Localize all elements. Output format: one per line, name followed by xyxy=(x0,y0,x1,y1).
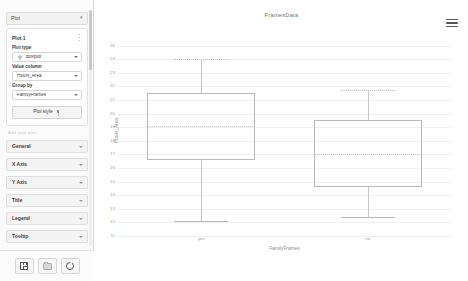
section-label-y-axis: Y Axis xyxy=(12,180,27,185)
gridline xyxy=(118,46,451,47)
plot-canvas: 111213141516171819202122232425 Hours_Are… xyxy=(118,32,451,236)
open-button[interactable] xyxy=(38,258,57,274)
sidebar-section-tooltip[interactable]: Tooltip xyxy=(6,230,88,243)
refresh-button[interactable] xyxy=(61,258,80,274)
boxplot-whisker-cap-upper xyxy=(174,59,228,60)
chevron-down-icon xyxy=(74,56,78,58)
more-vertical-icon[interactable] xyxy=(77,34,82,41)
y-tick-label: 15 xyxy=(93,180,115,184)
gridline xyxy=(118,73,451,74)
sidebar-section-y-axis[interactable]: Y Axis xyxy=(6,176,88,189)
section-label-x-axis: X Axis xyxy=(12,162,27,167)
boxplot-whisker-upper xyxy=(201,59,202,93)
value-column-value: Hours_Area xyxy=(17,74,42,79)
add-plot-hint[interactable]: Add new plot xyxy=(8,131,86,135)
boxplot-median-line xyxy=(147,126,255,127)
hamburger-menu-icon[interactable] xyxy=(446,18,458,28)
gridline xyxy=(118,209,451,210)
group-by-label: Group by xyxy=(12,84,82,89)
plot-config-card: Plot 1 Plot type Boxplot Value column Ho… xyxy=(6,28,88,126)
y-axis-label: Hours_Area xyxy=(114,118,119,143)
gridline xyxy=(118,59,451,60)
y-tick-label: 24 xyxy=(93,57,115,61)
gridline xyxy=(118,195,451,196)
sidebar-scrollbar-thumb[interactable] xyxy=(89,10,92,70)
chevron-down-icon xyxy=(79,164,83,166)
plot-name-label: Plot 1 xyxy=(12,35,26,41)
boxplot-whisker-lower xyxy=(201,160,202,221)
plot-type-value: Boxplot xyxy=(26,55,41,60)
chart-title: FramesData xyxy=(95,12,468,18)
plot-style-label: Plot style xyxy=(33,110,52,115)
chevron-down-icon[interactable]: ▾ xyxy=(80,16,83,21)
sidebar-scroll-content: Plot ▾ Plot 1 Plot type Boxplot Value co… xyxy=(0,8,94,248)
y-tick-label: 21 xyxy=(93,98,115,102)
y-tick-label: 19 xyxy=(93,125,115,129)
y-tick-label: 16 xyxy=(93,166,115,170)
save-button[interactable] xyxy=(15,258,34,274)
y-tick-label: 20 xyxy=(93,112,115,116)
x-tick-label: yes xyxy=(181,236,221,241)
section-label-legend: Legend xyxy=(12,216,30,221)
boxplot-whisker-cap-lower xyxy=(174,221,228,222)
chevron-down-icon xyxy=(79,182,83,184)
sidebar-section-legend[interactable]: Legend xyxy=(6,212,88,225)
y-tick-label: 12 xyxy=(93,220,115,224)
group-by-select[interactable]: FamilyFrames xyxy=(12,90,82,100)
plot-editor-app: Plot ▾ Plot 1 Plot type Boxplot Value co… xyxy=(0,0,468,281)
y-tick-label: 25 xyxy=(93,44,115,48)
group-by-value: FamilyFrames xyxy=(17,93,46,98)
chevron-down-icon xyxy=(79,236,83,238)
boxplot-whisker-cap-upper xyxy=(341,90,395,91)
plot-style-button[interactable]: Plot style xyxy=(12,106,82,119)
y-tick-label: 11 xyxy=(93,234,115,238)
value-column-label: Value column xyxy=(12,65,82,70)
brush-icon xyxy=(56,110,61,116)
plot-card-header: Plot 1 xyxy=(12,33,82,42)
gridline xyxy=(118,86,451,87)
y-tick-label: 22 xyxy=(93,84,115,88)
boxplot-whisker-lower xyxy=(368,187,369,217)
sidebar-section-title[interactable]: Title xyxy=(6,194,88,207)
gridline xyxy=(118,236,451,237)
y-tick-label: 18 xyxy=(93,139,115,143)
boxplot-median-line xyxy=(314,154,422,155)
section-label-title: Title xyxy=(12,198,22,203)
y-tick-label: 14 xyxy=(93,193,115,197)
plot-panel-title: Plot xyxy=(11,16,20,21)
sidebar-scrollbar[interactable] xyxy=(89,10,92,246)
chevron-down-icon xyxy=(74,94,78,96)
chevron-down-icon xyxy=(79,218,83,220)
section-label-general: General xyxy=(12,144,31,149)
plot-panel-header[interactable]: Plot ▾ xyxy=(6,12,88,25)
y-tick-label: 17 xyxy=(93,152,115,156)
y-tick-label: 23 xyxy=(93,71,115,75)
x-axis-label: FamilyFrames xyxy=(118,246,451,251)
refresh-icon xyxy=(66,262,74,270)
boxplot-icon xyxy=(17,54,23,60)
chevron-down-icon xyxy=(74,75,78,77)
plot-type-label: Plot type xyxy=(12,46,82,51)
section-label-tooltip: Tooltip xyxy=(12,234,28,239)
plot-type-select[interactable]: Boxplot xyxy=(12,52,82,62)
chart-area: FramesData 11121314151617181920212223242… xyxy=(95,0,468,281)
sidebar-section-general[interactable]: General xyxy=(6,140,88,153)
chevron-down-icon xyxy=(79,146,83,148)
sidebar-panel: Plot ▾ Plot 1 Plot type Boxplot Value co… xyxy=(0,0,94,281)
bottom-toolbar xyxy=(0,250,94,281)
value-column-select[interactable]: Hours_Area xyxy=(12,71,82,81)
folder-icon xyxy=(43,263,52,270)
boxplot-whisker-upper xyxy=(368,90,369,120)
save-icon xyxy=(20,262,28,270)
chevron-down-icon xyxy=(79,200,83,202)
y-tick-label: 13 xyxy=(93,207,115,211)
sidebar-section-x-axis[interactable]: X Axis xyxy=(6,158,88,171)
boxplot-whisker-cap-lower xyxy=(341,217,395,218)
gridline xyxy=(118,222,451,223)
x-tick-label: no xyxy=(348,236,388,241)
